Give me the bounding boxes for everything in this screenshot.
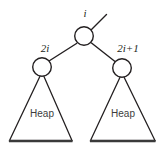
left-subtree-label: Heap	[30, 108, 54, 119]
left-child-node-circle	[33, 58, 52, 77]
root-to-left-child-edge	[49, 44, 77, 62]
root-node-circle	[75, 27, 94, 46]
root-to-right-child-edge	[92, 43, 116, 62]
left-subtree-triangle	[10, 72, 73, 141]
right-child-node-circle	[113, 59, 132, 78]
right-subtree-label: Heap	[111, 108, 135, 119]
root-node-label: i	[83, 7, 86, 19]
left-child-node-label: 2i	[41, 42, 50, 54]
right-child-node-label: 2i+1	[117, 42, 138, 54]
heap-diagram-canvas: i 2i 2i+1 Heap Heap	[0, 0, 166, 150]
heap-diagram: i 2i 2i+1 Heap Heap	[0, 0, 166, 150]
parent-edge-line	[91, 15, 107, 31]
right-subtree-triangle	[91, 73, 156, 141]
